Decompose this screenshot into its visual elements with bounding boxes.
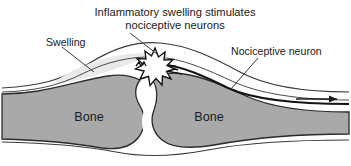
caption-line-2: nociceptive neurons <box>125 19 225 31</box>
diagram-canvas: Inflammatory swelling stimulates nocicep… <box>0 0 351 166</box>
caption-line-1: Inflammatory swelling stimulates <box>94 6 255 18</box>
signal-direction-arrow <box>296 96 337 103</box>
bone-left-label: Bone <box>74 110 103 124</box>
swelling-label: Swelling <box>46 36 86 48</box>
bone-nociception-diagram: Inflammatory swelling stimulates nocicep… <box>0 0 351 166</box>
nociceptive-neuron-leader-line <box>230 58 258 90</box>
bone-right-fragment <box>152 73 349 147</box>
caption-leader-line <box>130 33 157 54</box>
fracture-gap <box>144 78 150 141</box>
bone-right-label: Bone <box>194 110 223 124</box>
swelling-leader-line <box>62 47 94 72</box>
nociceptive-neuron-label: Nociceptive neuron <box>231 45 322 57</box>
